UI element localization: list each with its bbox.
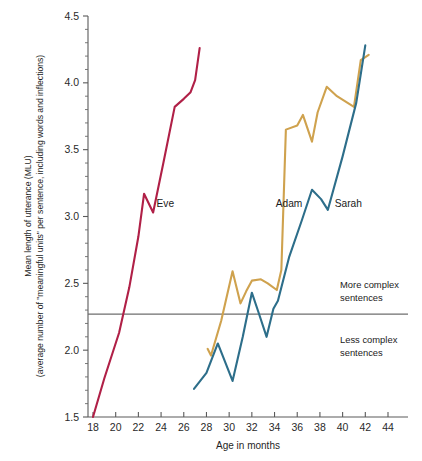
y-tick-label: 1.5 bbox=[64, 411, 79, 423]
x-tick-label: 22 bbox=[133, 421, 145, 433]
series-label-eve: Eve bbox=[157, 198, 175, 209]
x-tick-label: 42 bbox=[359, 421, 371, 433]
x-tick-label: 24 bbox=[155, 421, 167, 433]
x-tick-label: 28 bbox=[201, 421, 213, 433]
x-axis-ticks bbox=[93, 412, 388, 417]
x-tick-label: 20 bbox=[110, 421, 122, 433]
x-tick-label: 36 bbox=[291, 421, 303, 433]
annotation-less-complex-line1: Less complex bbox=[340, 334, 398, 345]
y-tick-label: 3.5 bbox=[64, 143, 79, 155]
series-label-sarah: Sarah bbox=[335, 198, 362, 209]
y-tick-label: 3.0 bbox=[64, 210, 79, 222]
x-tick-label: 32 bbox=[246, 421, 258, 433]
series-label-adam: Adam bbox=[276, 198, 303, 209]
y-tick-label: 2.5 bbox=[64, 277, 79, 289]
x-tick-label: 40 bbox=[337, 421, 349, 433]
x-axis-tick-labels: 1820222426283032343638404244 bbox=[87, 421, 394, 433]
data-series-group bbox=[93, 45, 369, 417]
series-line-eve bbox=[93, 48, 200, 417]
y-axis-ticks bbox=[83, 16, 88, 417]
y-axis-tick-labels: 1.52.02.53.03.54.04.5 bbox=[64, 10, 79, 423]
y-tick-label: 4.5 bbox=[64, 10, 79, 22]
x-tick-label: 44 bbox=[382, 421, 394, 433]
x-axis-title: Age in months bbox=[216, 440, 280, 451]
y-axis-title-primary: Mean length of utterance (MLU) bbox=[23, 155, 33, 276]
y-tick-label: 2.0 bbox=[64, 344, 79, 356]
mlu-line-chart: 1.52.02.53.03.54.04.5 182022242628303234… bbox=[0, 0, 422, 461]
annotation-more-complex-line2: sentences bbox=[340, 292, 383, 303]
y-axis-title-secondary: (average number of "meaningful units" pe… bbox=[35, 55, 45, 377]
chart-canvas: 1.52.02.53.03.54.04.5 182022242628303234… bbox=[0, 0, 422, 461]
annotation-less-complex-line2: sentences bbox=[340, 347, 383, 358]
x-tick-label: 38 bbox=[314, 421, 326, 433]
x-tick-label: 18 bbox=[87, 421, 99, 433]
annotation-more-complex-line1: More complex bbox=[340, 279, 399, 290]
x-tick-label: 26 bbox=[178, 421, 190, 433]
x-tick-label: 34 bbox=[269, 421, 281, 433]
y-tick-label: 4.0 bbox=[64, 76, 79, 88]
x-tick-label: 30 bbox=[223, 421, 235, 433]
